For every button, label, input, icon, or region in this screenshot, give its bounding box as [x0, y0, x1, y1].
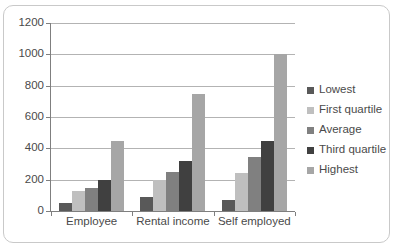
legend-item-average[interactable]: Average	[307, 120, 393, 140]
x-axis-label: Self employed	[214, 216, 295, 228]
y-axis-tick-label: 200	[25, 174, 44, 186]
bar-group	[214, 23, 295, 211]
y-axis-tick-mark	[46, 148, 50, 149]
bar-group	[132, 23, 213, 211]
x-axis-labels: EmployeeRental incomeSelf employed	[51, 216, 295, 228]
y-axis-tick-label: 1000	[18, 49, 44, 61]
chart-title	[4, 1, 391, 5]
legend-item-label: Third quartile	[319, 144, 386, 156]
legend-swatch-icon	[307, 87, 314, 94]
bar[interactable]	[85, 188, 98, 212]
x-axis-tick-mark	[295, 212, 296, 216]
bars-layer	[51, 23, 295, 211]
legend-item-label: Lowest	[319, 84, 355, 96]
y-axis-tick-label: 0	[38, 205, 44, 217]
y-axis-tick-label: 600	[25, 111, 44, 123]
legend-item-label: Average	[319, 124, 362, 136]
bar[interactable]	[192, 94, 205, 211]
y-axis-tick-mark	[46, 180, 50, 181]
legend-swatch-icon	[307, 127, 314, 134]
legend-item-first-quartile[interactable]: First quartile	[307, 100, 393, 120]
legend-swatch-icon	[307, 147, 314, 154]
legend-swatch-icon	[307, 107, 314, 114]
x-axis-label: Employee	[51, 216, 132, 228]
y-axis-tick-mark	[46, 23, 50, 24]
legend-item-lowest[interactable]: Lowest	[307, 80, 393, 100]
bar[interactable]	[179, 161, 192, 211]
y-axis-tick-mark	[46, 211, 50, 212]
bar-group	[51, 23, 132, 211]
bar[interactable]	[274, 54, 287, 211]
bar[interactable]	[261, 141, 274, 211]
legend-item-label: Highest	[319, 164, 358, 176]
bar[interactable]	[140, 197, 153, 211]
bar[interactable]	[98, 180, 111, 211]
chart-legend: LowestFirst quartileAverageThird quartil…	[307, 80, 393, 180]
y-axis-tick-label: 1200	[18, 17, 44, 29]
y-axis-tick-mark	[46, 54, 50, 55]
y-axis-tick-mark	[46, 117, 50, 118]
plot-area: 020040060080010001200	[51, 23, 295, 211]
bar[interactable]	[153, 180, 166, 211]
legend-item-third-quartile[interactable]: Third quartile	[307, 140, 393, 160]
bar[interactable]	[166, 172, 179, 211]
y-axis-tick-label: 400	[25, 143, 44, 155]
legend-item-highest[interactable]: Highest	[307, 160, 393, 180]
bar[interactable]	[72, 191, 85, 211]
legend-swatch-icon	[307, 167, 314, 174]
bar[interactable]	[111, 141, 124, 211]
bar[interactable]	[222, 200, 235, 211]
bar[interactable]	[235, 173, 248, 211]
x-axis-label: Rental income	[132, 216, 213, 228]
bar[interactable]	[248, 157, 261, 211]
y-axis-tick-mark	[46, 86, 50, 87]
y-axis-tick-label: 800	[25, 80, 44, 92]
chart-container: 020040060080010001200 EmployeeRental inc…	[3, 5, 390, 243]
legend-item-label: First quartile	[319, 104, 382, 116]
bar[interactable]	[59, 203, 72, 211]
